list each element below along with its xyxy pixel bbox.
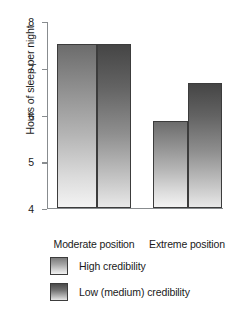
legend-label-high-credibility: High credibility — [79, 260, 146, 272]
x-category-label-extreme: Extreme position — [149, 238, 225, 250]
y-tick-8: 8 — [42, 22, 47, 23]
y-tick-5: 5 — [42, 162, 47, 163]
legend-item-high-credibility: High credibility — [50, 255, 190, 277]
y-tick-7: 7 — [42, 69, 47, 70]
x-category-label-moderate: Moderate position — [54, 238, 135, 250]
bar-moderate-low-credibility — [97, 44, 131, 208]
bar-extreme-low-credibility — [188, 83, 222, 208]
bar-moderate-high-credibility — [57, 44, 97, 208]
legend-label-low-credibility: Low (medium) credibility — [79, 286, 190, 298]
bar-extreme-high-credibility — [153, 121, 188, 208]
y-tick-label-5: 5 — [28, 157, 34, 168]
y-tick-label-7: 7 — [28, 64, 34, 75]
legend-swatch-icon-low-credibility — [50, 283, 68, 301]
y-tick-4: 4 — [42, 209, 47, 210]
legend-item-low-credibility: Low (medium) credibility — [50, 281, 190, 303]
y-tick-label-8: 8 — [28, 17, 34, 28]
x-axis-line — [47, 208, 223, 209]
legend-swatch-icon-high-credibility — [50, 257, 68, 275]
plot-area: 8 7 6 5 4 Moderate position Extreme posi… — [47, 22, 223, 209]
y-tick-label-6: 6 — [28, 110, 34, 121]
y-tick-6: 6 — [42, 116, 47, 117]
y-axis-line — [47, 22, 48, 209]
y-tick-label-4: 4 — [28, 204, 34, 215]
chart-legend: High credibility Low (medium) credibilit… — [50, 255, 190, 307]
bar-chart-figure: Hours of sleep per night 8 7 6 5 4 Moder… — [0, 0, 243, 317]
